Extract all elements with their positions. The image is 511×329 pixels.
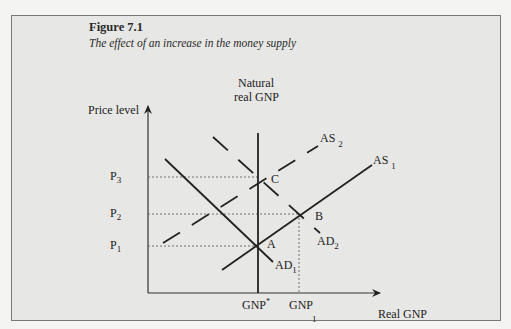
p3-label: P3 — [110, 169, 122, 185]
p2-label: P2 — [110, 206, 121, 222]
gnp-star-label: GNP* — [242, 297, 270, 312]
gnp1-sub: 1 — [312, 314, 317, 324]
y-axis-label: Price level — [88, 103, 140, 117]
as1-label: AS1 — [373, 153, 396, 171]
as1-curve — [222, 165, 372, 270]
natural-label-2: real GNP — [234, 90, 279, 104]
as2-label: AS2 — [320, 131, 343, 149]
point-b-label: B — [315, 209, 323, 223]
p1-label: P1 — [110, 238, 121, 254]
ad1-curve — [165, 159, 273, 262]
point-c-label: C — [271, 172, 279, 186]
x-axis-label: Real GNP — [378, 307, 427, 321]
natural-label-1: Natural — [238, 76, 275, 90]
ad-as-diagram: Price level Real GNP Natural real GNP GN… — [0, 0, 511, 329]
ad1-label: AD1 — [275, 258, 297, 275]
ad2-curve — [213, 137, 320, 233]
point-a-label: A — [267, 237, 276, 251]
ad2-label: AD2 — [317, 234, 339, 251]
gnp1-label: GNP — [289, 298, 313, 312]
